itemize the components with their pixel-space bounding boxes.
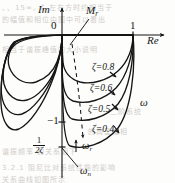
omega-n-label: ωn: [80, 165, 91, 177]
nyquist-curve-zeta-0-5: [1, 35, 133, 120]
half-over-zeta-fraction: 1 2ζ: [33, 136, 45, 155]
axis-label-im: Im: [38, 3, 50, 15]
resonant-peak-label: Mr: [86, 4, 98, 18]
curve-label-zeta-0-5: ζ=0.5: [88, 104, 110, 114]
origin-label: 0: [51, 19, 57, 31]
nyquist-plot-svg: [0, 0, 175, 183]
curve-label-zeta-0-6: ζ=0.6: [90, 83, 112, 93]
omega-n-subscript: n: [87, 170, 90, 177]
real-tick-label-1: 1: [130, 19, 136, 31]
omega-r-subscript: r: [89, 145, 92, 152]
fraction-denominator: 2ζ: [33, 145, 45, 155]
resonant-peak-subscript: r: [95, 10, 98, 18]
mr-leader-line: [70, 19, 89, 45]
imag-tick-label-minus1: −1: [47, 114, 59, 126]
omega-label: ω: [140, 96, 148, 108]
figure-canvas: 、、15=。ζ 左右方时约相当于 的幅值和相位由图中可以看出 相当于谐振峰值的大…: [0, 0, 175, 183]
axis-group: [4, 8, 164, 178]
fraction-numerator: 1: [33, 136, 45, 145]
omega-r-label: ωr: [82, 140, 92, 152]
resonant-peak-letter: M: [86, 4, 95, 16]
curve-label-zeta-0-4: ζ=0.4: [92, 124, 114, 134]
resonance-dashed-locus: [72, 44, 83, 138]
axis-label-re: Re: [147, 34, 159, 46]
curve-label-zeta-0-8: ζ=0.8: [92, 62, 114, 72]
